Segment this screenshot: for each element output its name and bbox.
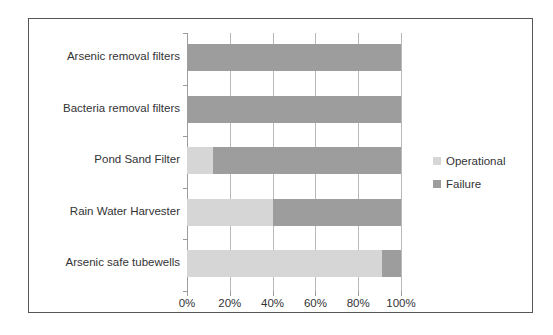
legend-swatch-icon bbox=[433, 157, 441, 165]
legend-label: Operational bbox=[446, 155, 505, 167]
x-axis-tick-label: 100% bbox=[386, 297, 415, 309]
x-axis-tick-mark bbox=[358, 291, 359, 296]
bar-row: Bacteria removal filters bbox=[187, 85, 401, 137]
bar-segment-failure bbox=[187, 44, 401, 71]
bar-row: Arsenic safe tubewells bbox=[187, 239, 401, 291]
bar-segment-failure bbox=[273, 199, 401, 226]
x-axis-tick-label: 0% bbox=[179, 297, 196, 309]
legend-swatch-icon bbox=[433, 180, 441, 188]
x-axis-tick-mark bbox=[315, 291, 316, 296]
chart-frame: Arsenic removal filtersBacteria removal … bbox=[28, 18, 533, 313]
x-axis-tick-label: 60% bbox=[304, 297, 327, 309]
bar-segment-failure bbox=[382, 250, 401, 277]
category-label: Arsenic safe tubewells bbox=[30, 256, 187, 269]
x-axis-tick-mark bbox=[273, 291, 274, 296]
category-label: Arsenic removal filters bbox=[30, 50, 187, 63]
x-axis-tick-mark bbox=[401, 291, 402, 296]
bar-segment-operational bbox=[187, 147, 213, 174]
plot-area: Arsenic removal filtersBacteria removal … bbox=[187, 33, 401, 291]
bar-row: Pond Sand Filter bbox=[187, 136, 401, 188]
x-axis-tick-mark bbox=[187, 291, 188, 296]
bar-row: Rain Water Harvester bbox=[187, 188, 401, 240]
category-label: Bacteria removal filters bbox=[30, 102, 187, 115]
bar-row: Arsenic removal filters bbox=[187, 33, 401, 85]
bar-segment-operational bbox=[187, 250, 382, 277]
category-label: Rain Water Harvester bbox=[30, 205, 187, 218]
chart-legend: OperationalFailure bbox=[433, 155, 529, 201]
bar-segment-failure bbox=[213, 147, 401, 174]
category-label: Pond Sand Filter bbox=[30, 153, 187, 166]
category-axis-tick-mark bbox=[183, 291, 187, 292]
x-axis-tick-label: 40% bbox=[261, 297, 284, 309]
legend-label: Failure bbox=[446, 178, 481, 190]
x-axis-tick-mark bbox=[230, 291, 231, 296]
legend-item-failure[interactable]: Failure bbox=[433, 178, 529, 190]
x-axis-tick-label: 20% bbox=[218, 297, 241, 309]
legend-item-operational[interactable]: Operational bbox=[433, 155, 529, 167]
bar-segment-operational bbox=[187, 199, 273, 226]
bar-segment-failure bbox=[187, 96, 401, 123]
gridline bbox=[401, 33, 402, 291]
chart-figure: Arsenic removal filtersBacteria removal … bbox=[0, 0, 553, 335]
x-axis-tick-label: 80% bbox=[347, 297, 370, 309]
